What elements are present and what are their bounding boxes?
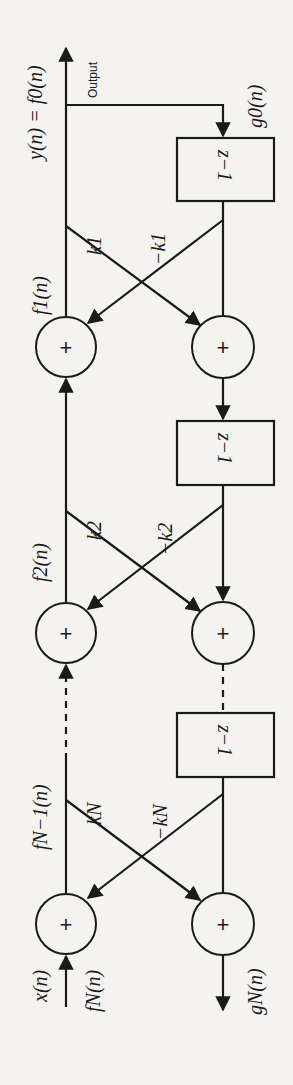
- kN-label: kN: [83, 801, 105, 825]
- neg-kN-label: −kN: [149, 803, 171, 840]
- plus-gN: +: [217, 912, 230, 937]
- x-label: x(n): [29, 969, 52, 1003]
- neg-k1-label: −k1: [147, 233, 169, 265]
- k2-label: k2: [83, 521, 105, 540]
- plus-g1: +: [217, 335, 230, 360]
- f2-label: f2(n): [29, 543, 52, 582]
- neg-k2-path: [88, 505, 223, 609]
- delay-1-label: z−1: [214, 149, 236, 181]
- delay-N-label: z−1: [214, 724, 236, 756]
- plus-f2: +: [60, 621, 73, 646]
- k1-label: k1: [83, 236, 105, 255]
- g0-feed-line: [66, 105, 223, 136]
- lattice-filter-diagram: + + + + + + y(n) = f0(n) Output g0(n) f1…: [0, 0, 293, 1085]
- output-text-label: Output: [86, 61, 100, 98]
- delay-2-label: z−1: [214, 432, 236, 464]
- f1-label: f1(n): [29, 276, 52, 315]
- fN-label: fN(n): [82, 969, 105, 1012]
- gN-label: gN(n): [244, 968, 267, 1015]
- g0-label: g0(n): [244, 84, 267, 128]
- neg-k2-label: −k2: [154, 523, 176, 555]
- fN1-label: fN−1(n): [29, 784, 52, 850]
- plus-g2: +: [217, 621, 230, 646]
- output-eq-label: y(n) = f0(n): [24, 65, 47, 162]
- plus-fN: +: [60, 912, 73, 937]
- plus-f1: +: [60, 335, 73, 360]
